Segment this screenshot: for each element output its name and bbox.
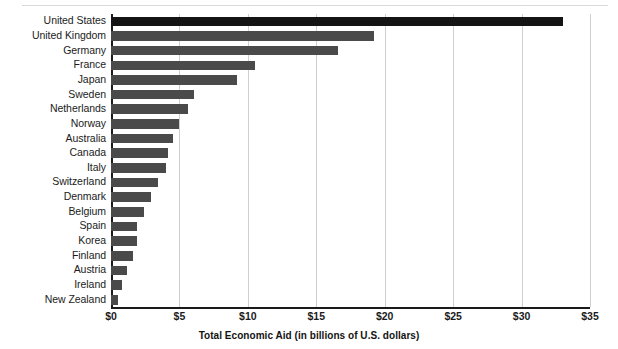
bar <box>111 251 133 261</box>
y-tick-label: United Kingdom <box>0 30 106 41</box>
y-tick-label: Spain <box>0 220 106 231</box>
bar <box>111 163 166 173</box>
x-tick-label: $30 <box>513 310 531 323</box>
bar <box>111 104 188 114</box>
bar <box>111 134 173 144</box>
x-tick-label: $20 <box>376 310 394 323</box>
y-tick-label: New Zealand <box>0 294 106 305</box>
bar <box>111 46 338 56</box>
y-tick-label: United States <box>0 15 106 26</box>
x-axis-title: Total Economic Aid (in billions of U.S. … <box>0 330 618 341</box>
plot-area <box>111 14 590 307</box>
top-divider-rule <box>22 5 608 6</box>
bar <box>111 222 137 232</box>
bar <box>111 61 255 71</box>
bar <box>111 148 168 158</box>
y-tick-label: Australia <box>0 133 106 144</box>
x-tick-label: $10 <box>239 310 257 323</box>
bar <box>111 90 194 100</box>
y-tick-label: Austria <box>0 264 106 275</box>
y-tick-label: Norway <box>0 118 106 129</box>
y-tick-label: Switzerland <box>0 176 106 187</box>
y-tick-label: Belgium <box>0 206 106 217</box>
y-tick-label: Netherlands <box>0 103 106 114</box>
bar <box>111 119 179 129</box>
bar-series <box>111 14 590 307</box>
y-tick-label: Ireland <box>0 279 106 290</box>
bar <box>111 280 122 290</box>
bar-chart: United StatesUnited KingdomGermanyFrance… <box>0 0 618 349</box>
y-tick-label: Germany <box>0 45 106 56</box>
y-tick-label: Finland <box>0 250 106 261</box>
bar <box>111 295 118 305</box>
bar <box>111 17 563 27</box>
bar <box>111 178 158 188</box>
y-tick-label: Denmark <box>0 191 106 202</box>
gridline-7 <box>590 14 591 307</box>
bar <box>111 266 127 276</box>
bar <box>111 31 374 41</box>
bar <box>111 236 137 246</box>
x-tick-label: $0 <box>105 310 117 323</box>
bar <box>111 192 151 202</box>
y-tick-label: Canada <box>0 147 106 158</box>
x-tick-label: $5 <box>174 310 186 323</box>
bar <box>111 207 144 217</box>
y-tick-label: France <box>0 59 106 70</box>
x-axis-tick-labels: $0$5$10$15$20$25$30$35 <box>0 310 618 326</box>
x-tick-label: $35 <box>581 310 599 323</box>
x-tick-label: $15 <box>308 310 326 323</box>
x-axis-line <box>111 307 590 309</box>
y-tick-label: Japan <box>0 74 106 85</box>
bar <box>111 75 237 85</box>
y-tick-label: Italy <box>0 162 106 173</box>
y-axis-category-labels: United StatesUnited KingdomGermanyFrance… <box>0 14 106 307</box>
x-tick-label: $25 <box>444 310 462 323</box>
y-tick-label: Korea <box>0 235 106 246</box>
y-tick-label: Sweden <box>0 89 106 100</box>
